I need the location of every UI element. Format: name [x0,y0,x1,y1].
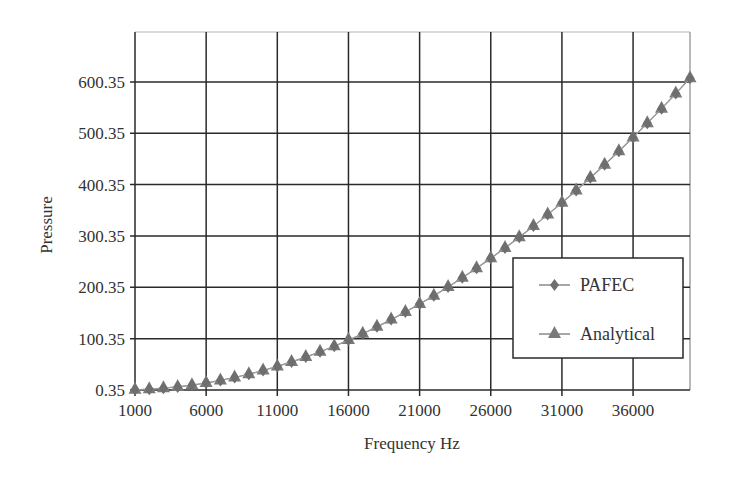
y-tick-label: 100.35 [78,330,125,349]
diamond-marker-icon [173,381,182,393]
diamond-marker-icon [557,197,566,209]
diamond-marker-icon [444,281,453,293]
diamond-marker-icon [401,306,410,318]
y-tick-label: 400.35 [78,176,125,195]
diamond-marker-icon [159,382,168,394]
diamond-marker-icon [145,383,154,395]
diamond-marker-icon [131,384,140,396]
diamond-marker-icon [230,372,239,384]
diamond-marker-icon [358,328,367,340]
diamond-marker-icon [501,242,510,254]
diamond-marker-icon [244,368,253,380]
y-axis-ticks: 0.35100.35200.35300.35400.35500.35600.35 [78,73,125,400]
diamond-marker-icon [372,321,381,333]
y-tick-label: 0.35 [95,381,125,400]
y-tick-label: 200.35 [78,278,125,297]
diamond-marker-icon [344,334,353,346]
diamond-marker-icon [643,117,652,129]
diamond-marker-icon [387,314,396,326]
x-tick-label: 21000 [398,401,441,420]
diamond-marker-icon [202,377,211,389]
legend: PAFEC Analytical [513,258,683,358]
diamond-marker-icon [529,220,538,232]
legend-label-analytical: Analytical [580,324,655,344]
pressure-frequency-chart: 0.35100.35200.35300.35400.35500.35600.35… [0,0,729,478]
diamond-marker-icon [429,290,438,302]
x-tick-label: 11000 [256,401,298,420]
x-tick-label: 36000 [612,401,655,420]
diamond-marker-icon [259,365,268,377]
diamond-marker-icon [515,231,524,243]
diamond-marker-icon [586,172,595,184]
diamond-marker-icon [415,298,424,310]
diamond-marker-icon [458,272,467,284]
legend-label-pafec: PAFEC [580,275,634,295]
x-tick-label: 6000 [189,401,223,420]
diamond-marker-icon [572,184,581,196]
diamond-marker-icon [330,340,339,352]
diamond-marker-icon [316,346,325,358]
diamond-marker-icon [287,356,296,368]
diamond-marker-icon [472,262,481,274]
diamond-marker-icon [216,374,225,386]
x-axis-title: Frequency Hz [364,434,460,453]
y-tick-label: 600.35 [78,73,125,92]
diamond-marker-icon [543,209,552,221]
x-axis-ticks: 10006000110001600021000260003100036000 [118,401,654,420]
y-tick-label: 500.35 [78,124,125,143]
y-tick-label: 300.35 [78,227,125,246]
x-tick-label: 31000 [541,401,584,420]
diamond-marker-icon [486,252,495,264]
diamond-marker-icon [600,159,609,171]
y-axis-title: Pressure [37,196,56,254]
diamond-marker-icon [614,145,623,157]
x-tick-label: 16000 [327,401,370,420]
diamond-marker-icon [301,351,310,363]
diamond-marker-icon [273,360,282,372]
x-tick-label: 26000 [470,401,513,420]
x-tick-label: 1000 [118,401,152,420]
